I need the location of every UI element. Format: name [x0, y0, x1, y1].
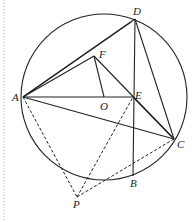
label-f: F [98, 48, 106, 60]
segment-ec [133, 97, 174, 139]
label-a: A [11, 91, 19, 103]
label-o: O [100, 100, 108, 112]
label-c: C [177, 138, 185, 150]
segment-pe-dashed [77, 97, 133, 197]
segment-ad-inner [23, 22, 131, 97]
segment-ac [23, 97, 174, 139]
segment-pc-dashed [77, 139, 174, 197]
geometry-figure: D F A O E C B P [0, 0, 195, 222]
segment-af [23, 56, 94, 97]
label-e: E [134, 89, 142, 101]
label-d: D [132, 5, 141, 17]
segment-dc [135, 19, 174, 139]
label-p: P [72, 198, 80, 210]
label-b: B [130, 177, 137, 189]
segment-ap-dashed [23, 97, 77, 197]
segment-fo [94, 56, 104, 97]
